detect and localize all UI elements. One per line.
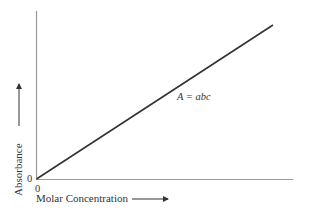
x-axis-label: Molar Concentration bbox=[36, 192, 128, 204]
y-origin-tick-label: 0 bbox=[27, 173, 32, 184]
y-axis-label: Absorbance bbox=[12, 143, 24, 196]
absorbance-line bbox=[37, 25, 274, 179]
beer-lambert-chart: A = abc 0 0 Molar Concentration Absorban… bbox=[0, 0, 310, 214]
equation-annotation: A = abc bbox=[176, 91, 211, 102]
